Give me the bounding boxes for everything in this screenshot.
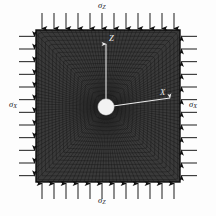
plate-mesh-body — [36, 30, 180, 182]
sigma-x-right-subscript: X — [193, 103, 197, 109]
x-axis-label: X — [160, 88, 165, 97]
sigma-z-top-subscript: Z — [102, 4, 105, 10]
fea-plate-figure: σZ σZ σX σX Z X — [0, 0, 216, 216]
z-axis-label: Z — [109, 34, 114, 43]
sigma-z-top-label: σZ — [98, 1, 106, 10]
sigma-z-bottom-subscript: Z — [102, 199, 105, 205]
sigma-x-right-label: σX — [189, 100, 197, 109]
sigma-x-left-label: σX — [9, 100, 17, 109]
sigma-x-left-subscript: X — [13, 103, 17, 109]
central-hole — [98, 99, 115, 116]
sigma-z-bottom-label: σZ — [98, 196, 106, 205]
fea-mesh-diagram — [0, 0, 216, 216]
